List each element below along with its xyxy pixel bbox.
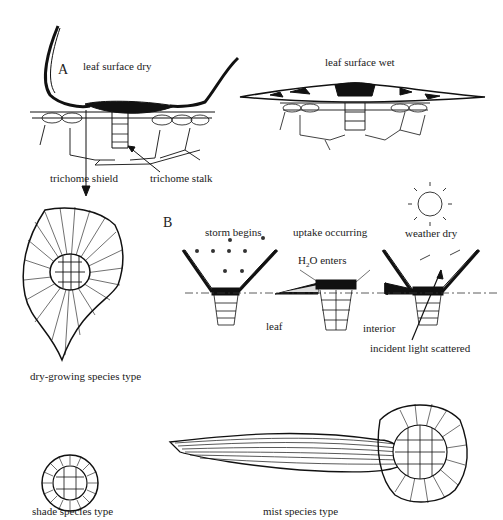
label-trichome-shield: trichome shield: [50, 172, 118, 184]
label-storm-begins: storm begins: [205, 226, 262, 238]
label-mist-species: mist species type: [263, 505, 338, 517]
label-dry-growing-species: dry-growing species type: [30, 370, 141, 382]
label-weather-dry: weather dry: [405, 227, 457, 239]
diagram-canvas: [0, 0, 503, 520]
label-h2o-enters: H2O enters: [298, 254, 346, 269]
label-leaf-surface-dry: leaf surface dry: [83, 60, 151, 72]
label-incident-light-scattered: incident light scattered: [370, 342, 470, 354]
label-uptake-occurring: uptake occurring: [293, 226, 367, 238]
sun-icon: [408, 182, 452, 226]
panel-b-letter: B: [163, 215, 172, 231]
label-leaf-surface-wet: leaf surface wet: [325, 56, 395, 68]
panel-a-letter: A: [58, 62, 68, 78]
trichome-dry-cross-section: [30, 26, 238, 196]
trichome-wet-cross-section: [240, 83, 485, 150]
funnel-weather-dry: [383, 250, 479, 340]
label-leaf: leaf: [266, 320, 282, 332]
trichome-mist-top-view: [170, 404, 467, 503]
trichome-dry-growing-top-view: [23, 207, 123, 360]
trichome-shade-top-view: [42, 455, 98, 511]
funnel-uptake-occurring: [275, 270, 434, 330]
label-trichome-stalk: trichome stalk: [150, 172, 213, 184]
label-interior: interior: [363, 322, 395, 334]
label-shade-species: shade species type: [32, 505, 113, 517]
funnel-storm-begins: [183, 236, 277, 325]
